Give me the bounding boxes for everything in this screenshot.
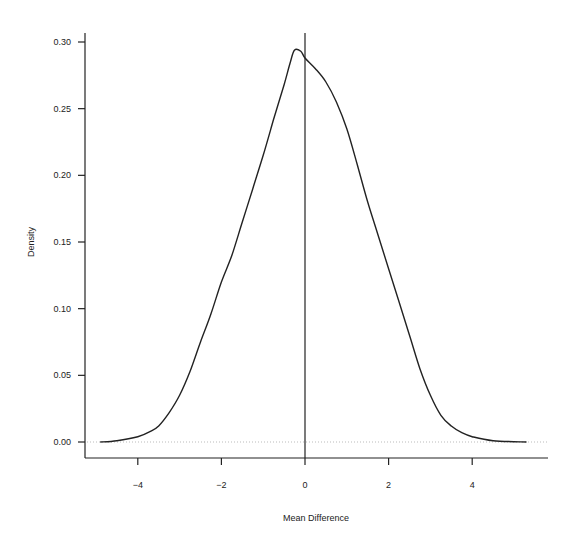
x-tick-label: −2 <box>216 480 226 490</box>
y-tick-label: 0.20 <box>53 170 71 180</box>
y-tick-label: 0.30 <box>53 37 71 47</box>
y-axis-label: Density <box>26 226 36 257</box>
y-axis-ticks: 0.000.050.100.150.200.250.30 <box>53 37 85 447</box>
y-tick-label: 0.25 <box>53 104 71 114</box>
density-plot: 0.000.050.100.150.200.250.30 −4−2024 Mea… <box>0 0 572 550</box>
y-tick-label: 0.10 <box>53 304 71 314</box>
x-tick-label: −4 <box>133 480 143 490</box>
x-tick-label: 0 <box>302 480 307 490</box>
plot-frame <box>85 33 548 458</box>
x-tick-label: 4 <box>470 480 475 490</box>
y-tick-label: 0.05 <box>53 370 71 380</box>
y-tick-label: 0.00 <box>53 437 71 447</box>
x-axis-ticks: −4−2024 <box>133 458 475 490</box>
y-tick-label: 0.15 <box>53 237 71 247</box>
x-tick-label: 2 <box>386 480 391 490</box>
density-curve <box>100 49 526 442</box>
x-axis-label: Mean Difference <box>283 513 349 523</box>
